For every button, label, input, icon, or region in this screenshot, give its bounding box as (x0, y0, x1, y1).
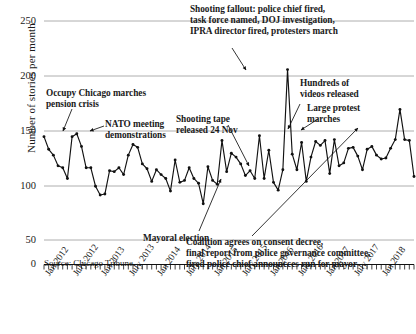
data-point (413, 175, 416, 178)
data-point (253, 177, 256, 180)
data-point (188, 166, 191, 169)
data-point (277, 189, 280, 192)
data-point (141, 162, 144, 165)
data-point (103, 193, 106, 196)
data-point (295, 168, 298, 171)
data-point (80, 145, 83, 148)
data-point (258, 134, 261, 137)
annotation-line: pension crisis (46, 99, 146, 110)
annotation-line: task force named, DOJ investigation, (190, 15, 338, 26)
data-point (71, 135, 74, 138)
data-point (328, 172, 331, 175)
data-point (155, 168, 158, 171)
annotation-line: Occupy Chicago marches (46, 88, 146, 99)
data-point (403, 138, 406, 141)
data-point (380, 158, 383, 161)
data-point (263, 177, 266, 180)
data-point (267, 149, 270, 152)
data-point (352, 146, 355, 149)
data-point (150, 180, 153, 183)
data-point (89, 166, 92, 169)
data-point (291, 153, 294, 156)
annotation-line: demonstrations (105, 130, 166, 141)
data-point (197, 182, 200, 185)
data-point (314, 140, 317, 143)
data-point (178, 181, 181, 184)
data-point (394, 138, 397, 141)
data-point (57, 164, 60, 167)
data-point (272, 181, 275, 184)
data-point (66, 177, 69, 180)
annotation-line: Shooting tape (176, 114, 238, 125)
data-point (52, 154, 55, 157)
data-point (300, 141, 303, 144)
data-point (347, 147, 350, 150)
data-point (192, 177, 195, 180)
data-point (221, 139, 224, 142)
data-point (239, 162, 242, 165)
data-point (230, 152, 233, 155)
data-point (361, 168, 364, 171)
data-point (160, 173, 163, 176)
plot-area (0, 0, 416, 334)
data-point (174, 159, 177, 162)
data-point (85, 166, 88, 169)
data-point (47, 148, 50, 151)
data-point (202, 202, 205, 205)
data-point (164, 177, 167, 180)
data-point (108, 169, 111, 172)
data-point (375, 154, 378, 157)
annotation-large-protest: Large protestmarches (307, 103, 360, 125)
annotation-line: IPRA director fired, protesters march (190, 26, 338, 37)
data-point (235, 156, 238, 159)
data-point (146, 167, 149, 170)
annotation-line: Shooting fallout: police chief fired, (190, 4, 338, 15)
annotation-shooting-fallout: Shooting fallout: police chief fired,tas… (190, 4, 338, 38)
data-point (113, 170, 116, 173)
data-point (384, 157, 387, 160)
data-point (370, 145, 373, 148)
data-point (99, 194, 102, 197)
data-point (43, 135, 46, 138)
data-point (286, 68, 289, 71)
annotation-line: Large protest (307, 103, 360, 114)
data-point (122, 173, 125, 176)
data-point (75, 132, 78, 135)
data-point (169, 190, 172, 193)
data-point (211, 179, 214, 182)
data-point (94, 185, 97, 188)
data-point (324, 139, 327, 142)
annotation-line: Hundreds of (300, 78, 359, 89)
data-point (338, 164, 341, 167)
data-point (281, 168, 284, 171)
data-point (117, 166, 120, 169)
annotation-line: videos released (300, 89, 359, 100)
data-point (333, 138, 336, 141)
data-point (132, 143, 135, 146)
data-point (342, 161, 345, 164)
data-point (244, 174, 247, 177)
data-point (366, 148, 369, 151)
annotation-line: released 24 Nov (176, 125, 238, 136)
annotation-nato-meeting: NATO meetingdemonstrations (105, 119, 166, 141)
data-point (61, 166, 64, 169)
chart-container: Number of stories per month 250 200 150 … (0, 0, 416, 334)
data-point (249, 169, 252, 172)
data-point (225, 170, 228, 173)
data-point (399, 108, 402, 111)
data-point (206, 165, 209, 168)
data-point (389, 147, 392, 150)
data-point (356, 155, 359, 158)
data-point (319, 144, 322, 147)
annotation-line: marches (307, 114, 360, 125)
data-point (183, 179, 186, 182)
data-point (310, 156, 313, 159)
data-point (127, 154, 130, 157)
annotation-hundreds-of-videos: Hundreds ofvideos released (300, 78, 359, 100)
data-point (408, 139, 411, 142)
annotation-line: NATO meeting (105, 119, 166, 130)
data-point (136, 146, 139, 149)
annotation-occupy-chicago: Occupy Chicago marchespension crisis (46, 88, 146, 110)
annotation-shooting-tape: Shooting tapereleased 24 Nov (176, 114, 238, 136)
